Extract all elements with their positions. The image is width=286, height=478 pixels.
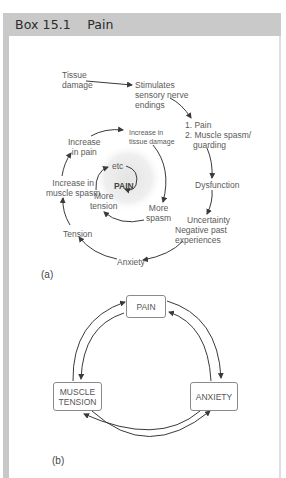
node-b-pain: PAIN [126, 295, 166, 318]
node-b-muscle-tension: MUSCLE TENSION [53, 382, 102, 411]
node-more-spasm: More spasm [146, 203, 171, 223]
node-tension: Tension [63, 229, 92, 239]
node-more-tension: More tension [90, 191, 117, 211]
node-dysfunction: Dysfunction [195, 180, 239, 190]
node-stimulates-nerve-endings: Stimulates sensory nerve endings [135, 80, 188, 110]
diagram-a-label: (a) [41, 269, 53, 280]
diagram-a-arrows [0, 0, 286, 478]
node-center-pain: PAIN [114, 181, 134, 191]
node-increase-pain: Increase in pain [68, 137, 101, 157]
node-pain-muscle-spasm: 1. Pain 2. Muscle spasm/ guarding [185, 120, 251, 150]
node-etc: etc [112, 161, 123, 171]
node-uncertainty: Uncertainty Negative past experiences [175, 215, 230, 245]
node-increase-tissue-damage: Increase in tissue damage [129, 129, 175, 146]
node-anxiety: Anxiety [117, 257, 145, 267]
node-b-anxiety: ANXIETY [190, 382, 238, 411]
node-tissue-damage: Tissue damage [62, 70, 93, 90]
diagram-b-label: (b) [52, 455, 64, 466]
